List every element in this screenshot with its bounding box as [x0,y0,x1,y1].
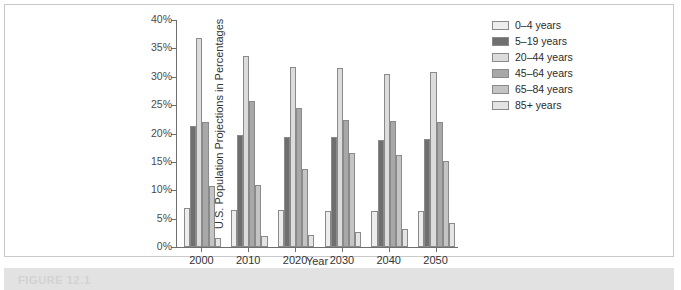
chart-plot-area: 0%5%10%15%20%25%30%35%40% 20002010202020… [176,20,458,248]
x-axis-tick-mark [248,248,249,252]
legend-swatch [492,37,509,46]
figure-caption: FIGURE 12.1 [18,274,91,286]
y-axis-tick-label: 40% [151,13,172,25]
legend-swatch [492,69,509,78]
legend-item: 20–44 years [492,49,612,65]
legend-label: 45–64 years [515,67,573,79]
legend-item: 65–84 years [492,81,612,97]
bar [215,238,221,247]
bar [261,236,267,247]
y-axis-tick-label: 35% [151,41,172,53]
bar-group [278,20,315,247]
bar-group [371,20,408,247]
chart-legend: 0–4 years5–19 years20–44 years45–64 year… [492,17,612,113]
legend-item: 5–19 years [492,33,612,49]
figure-root: 0%5%10%15%20%25%30%35%40% 20002010202020… [0,0,681,290]
bar [355,232,361,247]
legend-label: 0–4 years [515,19,561,31]
legend-label: 85+ years [515,99,561,111]
y-axis-tick-label: 25% [151,98,172,110]
y-axis-tick-label: 30% [151,70,172,82]
y-axis-tick-label: 20% [151,127,172,139]
x-axis-tick-mark [295,248,296,252]
y-axis-tick-label: 0% [157,240,172,252]
y-axis-tick-label: 15% [151,155,172,167]
bar-group [418,20,455,247]
legend-item: 85+ years [492,97,612,113]
legend-label: 65–84 years [515,83,573,95]
y-axis-tick-label: 5% [157,212,172,224]
x-axis-tick-mark [342,248,343,252]
legend-swatch [492,21,509,30]
legend-label: 5–19 years [515,35,567,47]
bar [402,229,408,247]
legend-label: 20–44 years [515,51,573,63]
legend-swatch [492,85,509,94]
legend-swatch [492,101,509,110]
figure-caption-band: FIGURE 12.1 [4,268,674,290]
figure-frame: 0%5%10%15%20%25%30%35%40% 20002010202020… [4,4,674,257]
legend-item: 45–64 years [492,65,612,81]
y-axis-tick-label: 10% [151,183,172,195]
legend-swatch [492,53,509,62]
y-axis-title: U.S. Population Projections in Percentag… [213,19,225,229]
bar-group [325,20,362,247]
x-axis-tick-mark [436,248,437,252]
legend-item: 0–4 years [492,17,612,33]
bar-group [231,20,268,247]
x-axis-tick-mark [389,248,390,252]
x-axis-tick-mark [201,248,202,252]
x-axis-title: Year [176,255,458,267]
bar [308,235,314,247]
bar [449,223,455,247]
